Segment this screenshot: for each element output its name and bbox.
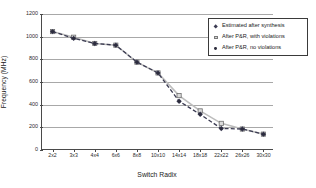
x-tick-label: 8x8 <box>133 153 141 158</box>
data-point-dot <box>220 127 223 130</box>
legend-item-label: After P&R, with violations <box>222 33 285 40</box>
y-tick-label: 600 <box>29 79 38 84</box>
x-tick-label: 30x30 <box>256 153 270 158</box>
data-point-dot <box>72 37 75 40</box>
chart-figure: Frequency (MHz) Switch Radix 02004006008… <box>0 0 316 188</box>
y-tick-label: 0 <box>35 147 38 152</box>
x-tick-label: 3x3 <box>69 153 77 158</box>
y-tick-label: 1000 <box>26 34 38 39</box>
x-tick-label: 2x2 <box>48 153 56 158</box>
y-tick-label: 800 <box>29 57 38 62</box>
y-tick-label: 400 <box>29 102 38 107</box>
data-point-square <box>177 94 181 98</box>
x-tick-label: 14x14 <box>172 153 186 158</box>
data-point-dot <box>178 100 181 103</box>
chart-legend: Estimated after synthesis After P&R, wit… <box>208 18 308 56</box>
data-point-dot <box>135 61 138 64</box>
legend-item-label: Estimated after synthesis <box>222 22 285 29</box>
data-point-dot <box>262 133 265 136</box>
x-axis-title: Switch Radix <box>137 171 176 178</box>
legend-item: Estimated after synthesis <box>211 22 304 30</box>
data-point-dot <box>241 128 244 131</box>
x-tick-label: 18x18 <box>193 153 207 158</box>
x-tick-label: 26x26 <box>235 153 249 158</box>
x-tick-label: 22x22 <box>214 153 228 158</box>
y-axis-title: Frequency (MHz) <box>0 56 7 108</box>
data-point-dot <box>114 44 117 47</box>
y-tick-mark <box>40 150 43 151</box>
data-point-dot <box>93 42 96 45</box>
x-tick-label: 4x4 <box>91 153 99 158</box>
data-point-dot <box>199 113 202 116</box>
data-point-dot <box>51 30 54 33</box>
legend-item-label: After P&R, no violations <box>222 44 281 51</box>
y-tick-label: 1200 <box>26 11 38 16</box>
legend-item: After P&R, with violations <box>211 33 304 41</box>
dot-marker-icon <box>211 45 222 52</box>
square-marker-icon <box>211 34 222 41</box>
data-point-square <box>219 121 223 125</box>
diamond-marker-icon <box>211 23 222 30</box>
data-point-dot <box>157 71 160 74</box>
y-tick-label: 200 <box>29 125 38 130</box>
legend-item: After P&R, no violations <box>211 44 304 52</box>
x-tick-label: 6x6 <box>112 153 120 158</box>
x-tick-label: 10x10 <box>151 153 165 158</box>
